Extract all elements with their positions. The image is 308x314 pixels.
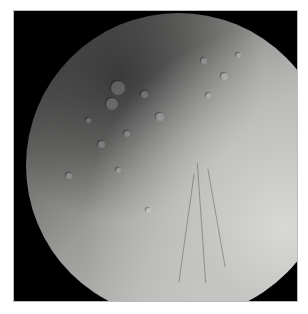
crater xyxy=(206,93,211,98)
crater xyxy=(98,141,105,148)
crater xyxy=(124,131,130,137)
moon-disc xyxy=(26,13,298,302)
crater xyxy=(236,53,241,58)
crater xyxy=(201,58,207,64)
surface-fracture xyxy=(207,169,225,268)
crater xyxy=(146,208,151,213)
surface-fracture xyxy=(197,163,206,283)
crater xyxy=(66,173,72,179)
crater xyxy=(221,73,228,80)
crater xyxy=(116,168,121,173)
crater xyxy=(156,113,164,121)
space-background xyxy=(13,10,298,302)
crater xyxy=(86,118,91,123)
crater xyxy=(111,81,125,95)
crater xyxy=(106,98,118,110)
surface-fracture xyxy=(178,173,194,282)
crater xyxy=(141,91,148,98)
